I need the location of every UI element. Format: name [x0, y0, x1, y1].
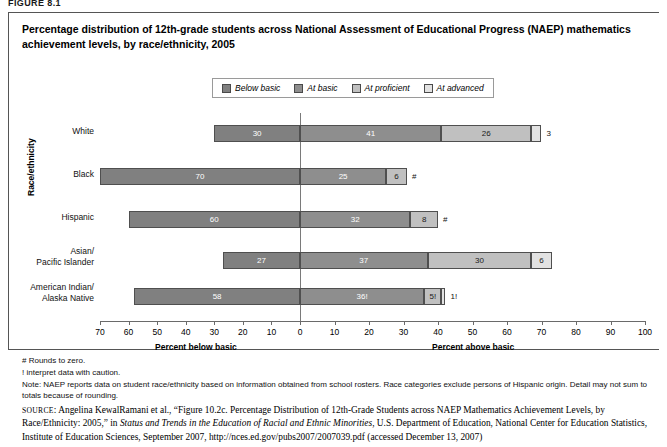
bar-segment-at-advanced: 6 — [531, 252, 552, 269]
bar-segment-at-proficient: 30 — [428, 252, 532, 269]
row-label-asian: Asian/ Pacific Islander — [0, 246, 94, 267]
x-axis-tick — [214, 321, 215, 325]
bar-segment-at-proficient: 5! — [424, 288, 441, 305]
x-axis-tick-label: 30 — [201, 327, 227, 337]
bar-segment-below-basic: 30 — [214, 125, 300, 142]
source-italic-title: Status and Trends in the Education of Ra… — [120, 418, 372, 428]
x-axis-tick — [645, 321, 646, 325]
chart-note-1: ! interpret data with caution. — [22, 367, 650, 378]
axis-title-left: Percent below basic — [155, 342, 237, 352]
bar-segment-below-basic: 58 — [134, 288, 300, 305]
x-axis-tick — [335, 321, 336, 325]
row-label-white: White — [0, 126, 94, 137]
x-axis-tick-label: 90 — [598, 327, 624, 337]
bar-row: White3041263 — [0, 125, 667, 161]
x-axis-tick-label: 10 — [258, 327, 284, 337]
x-axis-tick — [369, 321, 370, 325]
x-axis-tick-label: 20 — [356, 327, 382, 337]
x-axis-tick — [576, 321, 577, 325]
bar-segment-at-basic: 32 — [300, 211, 410, 228]
x-axis-tick-label: 70 — [87, 327, 113, 337]
bar-value-marker: # — [412, 172, 416, 181]
bar-segment-below-basic: 60 — [129, 211, 300, 228]
x-axis-tick — [507, 321, 508, 325]
x-axis-tick — [438, 321, 439, 325]
x-axis-tick — [243, 321, 244, 325]
bar-row: American Indian/ Alaska Native5836!5!1! — [0, 288, 667, 324]
x-axis-tick — [271, 321, 272, 325]
x-axis-tick-label: 10 — [322, 327, 348, 337]
chart-note-0: # Rounds to zero. — [22, 355, 650, 366]
x-axis-tick — [611, 321, 612, 325]
x-axis-tick-label: 60 — [494, 327, 520, 337]
bar-segment-at-basic: 25 — [300, 168, 386, 185]
x-axis-tick-label: 40 — [173, 327, 199, 337]
x-axis-tick-label: 50 — [144, 327, 170, 337]
bar-segment-below-basic: 27 — [223, 252, 300, 269]
axis-title-right: Percent above basic — [432, 342, 514, 352]
bar-value-marker: 3 — [547, 129, 551, 138]
bar-segment-at-proficient: 26 — [441, 125, 531, 142]
source-prefix: SOURCE — [22, 406, 54, 415]
x-axis-tick — [473, 321, 474, 325]
x-axis-tick — [542, 321, 543, 325]
bar-segment-at-basic: 37 — [300, 252, 428, 269]
x-axis-tick — [300, 321, 301, 325]
x-axis-tick-label: 80 — [563, 327, 589, 337]
row-label-hispanic: Hispanic — [0, 212, 94, 223]
bar-value-marker: 1! — [450, 292, 457, 301]
x-axis-tick-label: 100 — [632, 327, 658, 337]
bar-segment-at-proficient: 6 — [386, 168, 407, 185]
bar-row: Asian/ Pacific Islander2737306 — [0, 252, 667, 288]
x-axis-tick-label: 0 — [287, 327, 313, 337]
x-axis-tick-label: 50 — [460, 327, 486, 337]
chart-note-2: Note: NAEP reports data on student race/… — [22, 379, 650, 402]
bar-value-marker: # — [443, 215, 447, 224]
x-axis-tick-label: 20 — [230, 327, 256, 337]
bar-segment-at-advanced — [441, 288, 445, 305]
bar-segment-at-proficient: 8 — [410, 211, 438, 228]
x-axis-tick — [157, 321, 158, 325]
x-axis-tick-label: 70 — [529, 327, 555, 337]
bar-segment-at-basic: 41 — [300, 125, 441, 142]
source-citation: SOURCE: Angelina KewalRamani et al., “Fi… — [22, 404, 650, 444]
row-label-black: Black — [0, 169, 94, 180]
x-axis-tick — [129, 321, 130, 325]
row-label-american-indian: American Indian/ Alaska Native — [0, 282, 94, 303]
bar-segment-at-basic: 36! — [300, 288, 424, 305]
bar-row: Black70256# — [0, 168, 667, 204]
bar-segment-at-advanced — [531, 125, 541, 142]
x-axis-tick-label: 40 — [425, 327, 451, 337]
x-axis-tick — [186, 321, 187, 325]
bar-segment-below-basic: 70 — [100, 168, 300, 185]
x-axis-tick-label: 60 — [116, 327, 142, 337]
x-axis-tick — [100, 321, 101, 325]
x-axis-line — [100, 321, 646, 322]
x-axis-tick — [404, 321, 405, 325]
chart-notes: # Rounds to zero.! interpret data with c… — [22, 355, 650, 402]
bar-row: Hispanic60328# — [0, 211, 667, 247]
x-axis-tick-label: 30 — [391, 327, 417, 337]
